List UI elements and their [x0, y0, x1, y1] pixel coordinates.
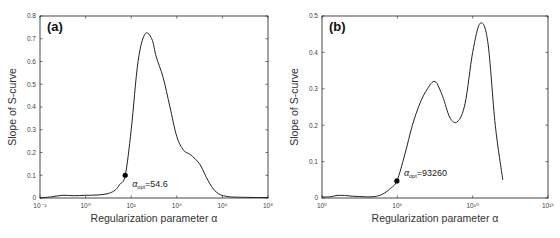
x-tick-label: 10⁻²: [33, 202, 47, 209]
alpha-opt-annotation: αopt=93260: [404, 168, 447, 179]
x-tick-label: 10⁴: [172, 202, 182, 209]
figure: 00.10.20.30.40.50.60.70.810⁻²10⁰10²10⁴10…: [0, 0, 560, 238]
y-tick-label: 0: [314, 194, 318, 201]
y-tick-label: 0.5: [309, 12, 318, 19]
x-tick-label: 10⁰: [80, 202, 90, 209]
data-line: [40, 33, 268, 198]
x-axis-label: Regularization parameter α: [372, 212, 499, 224]
x-tick-label: 10¹⁰: [466, 202, 478, 209]
chart-panel-b: 00.10.20.30.40.510⁰10⁵10¹⁰10¹⁵Regulariza…: [288, 12, 554, 224]
y-tick-label: 0: [32, 194, 36, 201]
y-tick-label: 0.8: [27, 12, 36, 19]
x-tick-label: 10⁰: [317, 202, 327, 209]
x-tick-label: 10²: [126, 202, 136, 209]
x-tick-label: 10¹⁵: [542, 202, 554, 209]
y-tick-label: 0.2: [27, 149, 36, 156]
chart-panel-a: 00.10.20.30.40.50.60.70.810⁻²10⁰10²10⁴10…: [6, 12, 273, 224]
x-tick-label: 10⁶: [217, 202, 227, 209]
x-tick-label: 10⁵: [392, 202, 402, 209]
y-tick-label: 0.1: [27, 172, 36, 179]
x-tick-label: 10⁸: [263, 202, 273, 209]
y-tick-label: 0.1: [309, 158, 318, 165]
y-tick-label: 0.7: [27, 35, 36, 42]
panel-label: (b): [329, 19, 346, 34]
y-tick-label: 0.4: [27, 103, 36, 110]
y-axis-label: Slope of S-curve: [288, 68, 300, 146]
y-tick-label: 0.5: [27, 81, 36, 88]
y-tick-label: 0.2: [309, 122, 318, 129]
plot-frame: [40, 16, 268, 198]
optimal-point-marker: [123, 173, 128, 178]
y-tick-label: 0.4: [309, 49, 318, 56]
y-tick-label: 0.3: [27, 126, 36, 133]
y-tick-label: 0.3: [309, 85, 318, 92]
data-line: [322, 23, 503, 197]
optimal-point-marker: [394, 178, 399, 183]
y-axis-label: Slope of S-curve: [6, 68, 18, 146]
x-axis-label: Regularization parameter α: [91, 212, 218, 224]
alpha-opt-annotation: αopt=54.6: [132, 179, 168, 190]
y-tick-label: 0.6: [27, 58, 36, 65]
panel-label: (a): [47, 19, 63, 34]
